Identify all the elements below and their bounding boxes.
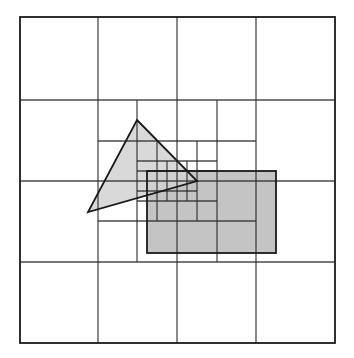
diagram-svg [0, 0, 354, 358]
quadtree-diagram [0, 0, 354, 358]
